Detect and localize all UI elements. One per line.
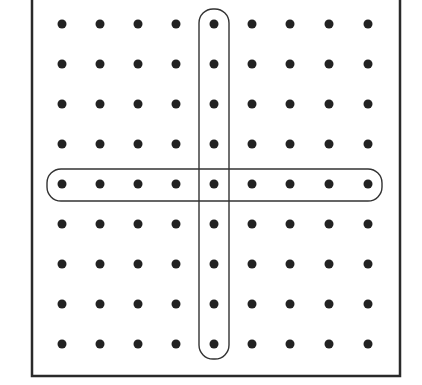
- grid-dot: [172, 220, 181, 229]
- grid-dot: [286, 20, 295, 29]
- grid-dot: [248, 180, 257, 189]
- grid-dot: [172, 100, 181, 109]
- grid-dot: [96, 220, 105, 229]
- grid-dot: [325, 180, 334, 189]
- dot-grid: [58, 20, 373, 349]
- grid-dot: [286, 100, 295, 109]
- grid-dot: [364, 140, 373, 149]
- grid-dot: [172, 60, 181, 69]
- grid-dot: [248, 220, 257, 229]
- grid-dot: [210, 60, 219, 69]
- grid-dot: [134, 180, 143, 189]
- grid-dot: [58, 300, 67, 309]
- grid-dot: [325, 60, 334, 69]
- grid-dot: [286, 180, 295, 189]
- grid-dot: [286, 260, 295, 269]
- grid-dot: [58, 140, 67, 149]
- grid-dot: [134, 140, 143, 149]
- grid-dot: [96, 300, 105, 309]
- grid-dot: [325, 100, 334, 109]
- grid-dot: [210, 260, 219, 269]
- grid-dot: [210, 340, 219, 349]
- grid-dot: [134, 260, 143, 269]
- grid-dot: [325, 140, 334, 149]
- grid-dot: [172, 260, 181, 269]
- dot-grid-figure: [0, 0, 422, 385]
- grid-dot: [364, 60, 373, 69]
- grid-dot: [172, 340, 181, 349]
- grid-dot: [210, 180, 219, 189]
- grid-dot: [364, 20, 373, 29]
- grid-dot: [210, 20, 219, 29]
- grid-dot: [248, 140, 257, 149]
- grid-dot: [286, 340, 295, 349]
- grid-dot: [96, 100, 105, 109]
- grid-dot: [96, 340, 105, 349]
- grid-dot: [325, 220, 334, 229]
- grid-dot: [286, 140, 295, 149]
- grid-dot: [364, 180, 373, 189]
- grid-dot: [210, 100, 219, 109]
- grid-dot: [248, 20, 257, 29]
- grid-dot: [210, 220, 219, 229]
- grid-dot: [58, 100, 67, 109]
- grid-dot: [58, 180, 67, 189]
- grid-dot: [172, 140, 181, 149]
- grid-dot: [96, 180, 105, 189]
- grid-dot: [325, 260, 334, 269]
- grid-dot: [364, 340, 373, 349]
- grid-dot: [248, 300, 257, 309]
- grid-dot: [134, 20, 143, 29]
- grid-dot: [364, 100, 373, 109]
- grid-dot: [134, 220, 143, 229]
- grid-dot: [325, 340, 334, 349]
- grid-dot: [325, 20, 334, 29]
- grid-dot: [248, 260, 257, 269]
- grid-dot: [248, 340, 257, 349]
- grid-dot: [248, 60, 257, 69]
- grid-dot: [96, 260, 105, 269]
- grid-dot: [172, 180, 181, 189]
- grid-dot: [248, 100, 257, 109]
- grid-dot: [58, 20, 67, 29]
- grid-dot: [134, 340, 143, 349]
- grid-dot: [96, 140, 105, 149]
- grid-dot: [134, 100, 143, 109]
- grid-dot: [286, 60, 295, 69]
- grid-dot: [286, 220, 295, 229]
- grid-dot: [134, 60, 143, 69]
- grid-dot: [325, 300, 334, 309]
- grid-dot: [286, 300, 295, 309]
- grid-dot: [58, 260, 67, 269]
- grid-dot: [364, 220, 373, 229]
- grid-dot: [58, 340, 67, 349]
- grid-dot: [96, 60, 105, 69]
- grid-dot: [134, 300, 143, 309]
- grid-dot: [58, 60, 67, 69]
- grid-dot: [58, 220, 67, 229]
- grid-dot: [172, 20, 181, 29]
- grid-dot: [172, 300, 181, 309]
- grid-dot: [364, 300, 373, 309]
- grid-dot: [96, 20, 105, 29]
- grid-dot: [364, 260, 373, 269]
- grid-dot: [210, 140, 219, 149]
- grid-dot: [210, 300, 219, 309]
